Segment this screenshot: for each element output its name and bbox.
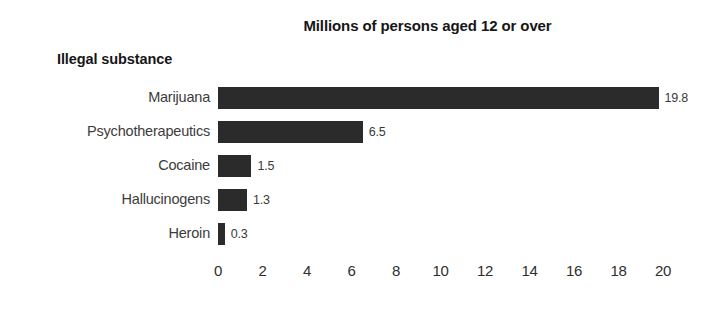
- bar-value-label: 19.8: [665, 91, 689, 105]
- bar-marijuana: [218, 87, 659, 109]
- bar-row: 19.8: [218, 87, 663, 109]
- x-tick-20: 20: [655, 262, 671, 279]
- x-tick-10: 10: [432, 262, 448, 279]
- x-tick-8: 8: [392, 262, 400, 279]
- category-label-heroin: Heroin: [10, 225, 210, 241]
- bar-cocaine: [218, 155, 251, 177]
- y-axis-tick-labels: MarijuanaPsychotherapeuticsCocaineHalluc…: [8, 87, 210, 257]
- x-axis-tick-labels: 02468101214161820: [218, 262, 663, 284]
- bar-row: 1.5: [218, 155, 663, 177]
- bar-value-label: 6.5: [369, 125, 386, 139]
- chart-title: Millions of persons aged 12 or over: [0, 17, 713, 34]
- bar-value-label: 1.3: [253, 193, 270, 207]
- x-tick-16: 16: [566, 262, 582, 279]
- bar-hallucinogens: [218, 189, 247, 211]
- x-tick-14: 14: [521, 262, 537, 279]
- plot-area: 19.86.51.51.30.3: [218, 87, 663, 257]
- bar-heroin: [218, 223, 225, 245]
- x-tick-18: 18: [610, 262, 626, 279]
- bar-chart: Millions of persons aged 12 or over Ille…: [0, 0, 713, 312]
- category-label-marijuana: Marijuana: [10, 89, 210, 105]
- x-tick-12: 12: [477, 262, 493, 279]
- category-label-psychotherapeutics: Psychotherapeutics: [10, 123, 210, 139]
- bar-value-label: 0.3: [231, 227, 248, 241]
- category-label-hallucinogens: Hallucinogens: [10, 191, 210, 207]
- bar-psychotherapeutics: [218, 121, 363, 143]
- bar-row: 1.3: [218, 189, 663, 211]
- x-tick-4: 4: [303, 262, 311, 279]
- x-tick-2: 2: [258, 262, 266, 279]
- bar-value-label: 1.5: [257, 159, 274, 173]
- bar-row: 0.3: [218, 223, 663, 245]
- x-tick-6: 6: [347, 262, 355, 279]
- bar-row: 6.5: [218, 121, 663, 143]
- y-axis-title: Illegal substance: [57, 51, 172, 67]
- x-tick-0: 0: [214, 262, 222, 279]
- category-label-cocaine: Cocaine: [10, 157, 210, 173]
